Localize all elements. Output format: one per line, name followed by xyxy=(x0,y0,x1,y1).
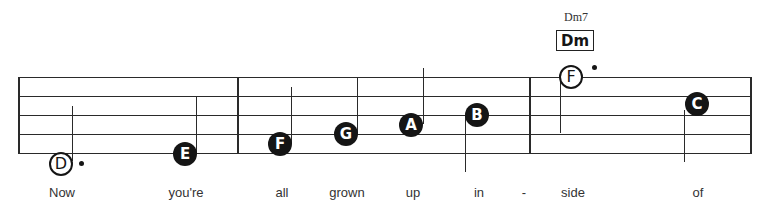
staff-line-3 xyxy=(18,115,751,116)
note-stem xyxy=(72,106,73,161)
bar-line-start xyxy=(18,77,20,154)
note-stem xyxy=(560,78,561,133)
note-stem xyxy=(357,77,358,133)
lyric-word: side xyxy=(561,185,585,200)
lyric-hyphen: - xyxy=(522,185,526,200)
lyric-word: in xyxy=(474,185,484,200)
note-head-f-open: F xyxy=(559,65,583,89)
staff-line-1 xyxy=(18,77,751,78)
note-head-a: A xyxy=(399,113,423,137)
staff-line-2 xyxy=(18,96,751,97)
note-stem xyxy=(684,110,685,162)
lyric-word: of xyxy=(693,185,704,200)
bar-line-end xyxy=(750,77,752,154)
bar-line-2 xyxy=(529,77,531,154)
note-stem xyxy=(465,115,466,172)
staff-line-4 xyxy=(18,134,751,135)
music-staff-score: Dm7 Dm D E F G A B F C Now you're all gr… xyxy=(0,0,771,219)
lyric-word: grown xyxy=(329,185,364,200)
note-stem xyxy=(196,97,197,153)
note-head-g: G xyxy=(334,122,358,146)
dot-icon xyxy=(592,65,597,70)
note-head-c: C xyxy=(685,92,709,116)
note-head-b: B xyxy=(465,103,489,127)
lyric-word: Now xyxy=(49,185,75,200)
lyric-word: up xyxy=(406,185,420,200)
bar-line-1 xyxy=(237,77,239,154)
staff-line-5 xyxy=(18,153,751,154)
chord-name: Dm7 xyxy=(564,10,588,25)
lyric-word: you're xyxy=(168,185,203,200)
note-head-d: D xyxy=(49,152,73,176)
note-head-e: E xyxy=(173,142,197,166)
dot-icon xyxy=(79,161,84,166)
chord-box: Dm xyxy=(556,30,594,51)
lyric-word: all xyxy=(275,185,288,200)
note-stem xyxy=(423,68,424,124)
note-head-f: F xyxy=(268,132,292,156)
note-stem xyxy=(291,87,292,144)
